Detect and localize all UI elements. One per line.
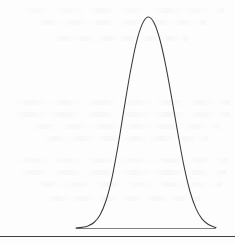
scanned-page (0, 0, 235, 244)
bell-curve-figure (0, 0, 235, 244)
normal-distribution-curve (76, 17, 216, 228)
page-bottom-rule (0, 236, 235, 237)
